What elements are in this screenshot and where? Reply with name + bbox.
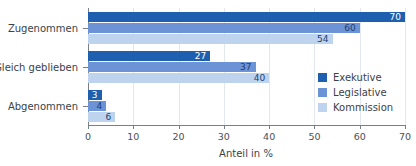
legend-swatch-icon bbox=[318, 103, 327, 112]
category-labels: ZugenommenGleich gebliebenAbgenommen bbox=[0, 0, 82, 166]
bar-value-label: 27 bbox=[195, 51, 206, 61]
x-tick-label: 40 bbox=[263, 131, 275, 142]
bar bbox=[88, 51, 210, 61]
x-tick bbox=[179, 125, 180, 129]
bar-value-label: 4 bbox=[96, 101, 102, 111]
bar-value-label: 6 bbox=[105, 112, 111, 122]
bar-chart: ZugenommenGleich gebliebenAbgenommen 706… bbox=[0, 0, 416, 166]
bar-value-label: 60 bbox=[344, 23, 355, 33]
bar bbox=[88, 73, 269, 83]
bar-value-label: 54 bbox=[317, 34, 328, 44]
x-tick bbox=[269, 125, 270, 129]
x-tick bbox=[88, 125, 89, 129]
x-axis-title: Anteil in % bbox=[219, 148, 273, 159]
x-tick bbox=[405, 125, 406, 129]
legend: ExekutiveLegislativeKommission bbox=[318, 70, 393, 115]
x-tick-label: 10 bbox=[127, 131, 139, 142]
x-tick-label: 60 bbox=[354, 131, 366, 142]
x-tick-label: 70 bbox=[399, 131, 411, 142]
bar bbox=[88, 23, 360, 33]
gridline bbox=[405, 8, 406, 125]
bar bbox=[88, 34, 333, 44]
legend-label: Exekutive bbox=[333, 72, 382, 83]
bar-value-label: 40 bbox=[254, 73, 265, 83]
x-tick-label: 50 bbox=[308, 131, 320, 142]
x-tick-label: 0 bbox=[85, 131, 91, 142]
legend-label: Legislative bbox=[333, 87, 387, 98]
bar-value-label: 70 bbox=[390, 12, 401, 22]
bar bbox=[88, 12, 405, 22]
x-axis-line bbox=[88, 125, 405, 126]
x-tick bbox=[314, 125, 315, 129]
category-label: Zugenommen bbox=[8, 22, 78, 33]
x-tick-label: 30 bbox=[218, 131, 230, 142]
legend-item: Exekutive bbox=[318, 70, 393, 85]
bar bbox=[88, 62, 256, 72]
category-label: Gleich geblieben bbox=[0, 61, 78, 72]
legend-item: Kommission bbox=[318, 100, 393, 115]
legend-swatch-icon bbox=[318, 73, 327, 82]
x-tick bbox=[224, 125, 225, 129]
x-tick bbox=[133, 125, 134, 129]
legend-label: Kommission bbox=[333, 102, 393, 113]
legend-swatch-icon bbox=[318, 88, 327, 97]
category-label: Abgenommen bbox=[8, 100, 78, 111]
bar-value-label: 37 bbox=[240, 62, 251, 72]
x-tick bbox=[360, 125, 361, 129]
x-tick-label: 20 bbox=[173, 131, 185, 142]
bar-value-label: 3 bbox=[92, 90, 98, 100]
legend-item: Legislative bbox=[318, 85, 393, 100]
